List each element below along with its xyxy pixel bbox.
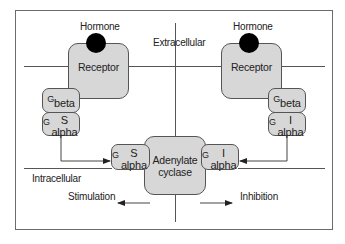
- left-hormone-icon: [86, 33, 106, 53]
- left-hormone-label: Hormone: [80, 21, 120, 32]
- center-gi-alpha: GI alpha: [201, 144, 239, 170]
- right-gi-alpha: GI alpha: [268, 112, 306, 136]
- right-hormone-label: Hormone: [233, 21, 273, 32]
- right-hormone-icon: [239, 33, 259, 53]
- left-gs-alpha: GS alpha: [42, 112, 80, 136]
- adenylate-cyclase: Adenylate cyclase: [144, 136, 206, 195]
- right-receptor-label: Receptor: [231, 61, 272, 73]
- right-g-beta: Gbeta: [268, 88, 306, 113]
- left-receptor-label: Receptor: [78, 61, 119, 73]
- extracellular-label: Extracellular: [153, 37, 205, 48]
- adenylate-cyclase-line2: cyclase: [158, 166, 192, 178]
- left-g-beta: Gbeta: [42, 88, 80, 113]
- center-gs-alpha: GS alpha: [111, 144, 150, 170]
- inhibition-label: Inhibition: [240, 191, 278, 202]
- adenylate-cyclase-line1: Adenylate: [153, 154, 198, 166]
- stimulation-label: Stimulation: [68, 191, 115, 202]
- intracellular-label: Intracellular: [32, 173, 81, 184]
